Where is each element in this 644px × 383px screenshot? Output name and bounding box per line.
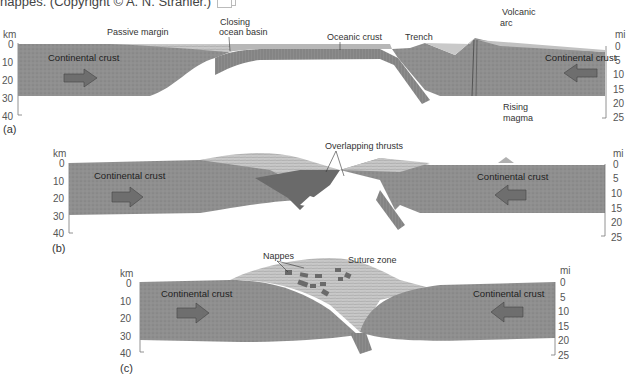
axis-mi-unit: mi (613, 148, 624, 159)
axis-mi-tick: 25 (558, 350, 570, 361)
axis-mi-tick: 25 (613, 112, 625, 123)
label-closing-ocean-basin: Closing (220, 17, 250, 27)
axis-km-tick: 30 (2, 93, 14, 104)
panel-c: km 0 10 20 30 40 mi 0 5 10 15 20 (120, 251, 571, 374)
panel-a: km 0 10 20 30 40 mi 0 5 10 15 20 25 Pass… (2, 7, 626, 135)
axis-mi-tick: 10 (613, 69, 625, 80)
label-continental-crust-left: Continental crust (48, 52, 120, 63)
axis-mi-tick: 15 (611, 203, 623, 214)
axis-km-tick: 0 (8, 39, 14, 50)
axis-km-tick: 40 (53, 228, 65, 239)
axis-mi-tick: 0 (560, 277, 566, 288)
label-suture-zone: Suture zone (348, 255, 397, 265)
axis-km-tick: 0 (126, 278, 132, 289)
axis-km-tick: 40 (120, 348, 132, 359)
label-passive-margin: Passive margin (107, 27, 169, 37)
axis-km-tick: 20 (53, 193, 65, 204)
axis-km-tick: 20 (2, 75, 14, 86)
label-closing-ocean-basin: ocean basin (219, 27, 268, 37)
label-continental-crust-right: Continental crust (473, 288, 545, 299)
axis-mi-tick: 10 (611, 188, 623, 199)
label-volcanic-arc: arc (500, 18, 513, 28)
panel-label-b: (b) (52, 242, 65, 254)
axis-mi-tick: 15 (558, 321, 570, 332)
axis-mi-tick: 5 (560, 292, 566, 303)
axis-mi-tick: 20 (611, 217, 623, 228)
label-rising-magma: Rising (503, 102, 528, 112)
label-rising-magma: magma (503, 113, 533, 123)
label-trench: Trench (405, 32, 433, 42)
panel-label-c: (c) (120, 362, 133, 374)
panel-label-a: (a) (3, 123, 16, 135)
axis-mi-tick: 20 (613, 98, 625, 109)
axis-km-tick: 10 (2, 57, 14, 68)
axis-mi-tick: 5 (613, 173, 619, 184)
axis-km-tick: 20 (120, 313, 132, 324)
axis-km-tick: 30 (120, 331, 132, 342)
axis-mi-tick: 25 (611, 232, 623, 243)
label-continental-crust-left: Continental crust (94, 170, 166, 181)
axis-mi-tick: 0 (613, 159, 619, 170)
label-continental-crust-left: Continental crust (161, 288, 233, 299)
axis-mi-unit: mi (560, 265, 571, 276)
label-overlapping-thrusts: Overlapping thrusts (325, 141, 404, 151)
axis-mi-tick: 10 (558, 306, 570, 317)
label-nappes: Nappes (263, 251, 295, 261)
axis-mi-unit: mi (615, 29, 626, 40)
axis-km-tick: 0 (59, 158, 65, 169)
label-oceanic-crust: Oceanic crust (327, 32, 383, 42)
axis-km-tick: 30 (53, 211, 65, 222)
label-continental-crust-right: Continental crust (477, 171, 549, 182)
axis-km-tick: 10 (120, 296, 132, 307)
axis-mi-tick: 0 (615, 41, 621, 52)
axis-km-tick: 10 (53, 176, 65, 187)
label-volcanic-arc: Volcanic (502, 7, 536, 17)
axis-mi-tick: 20 (558, 335, 570, 346)
axis-km-tick: 40 (2, 111, 14, 122)
panel-b: km 0 10 20 30 40 mi 0 5 10 15 20 25 Over… (52, 141, 624, 254)
axis-mi-tick: 15 (613, 84, 625, 95)
label-continental-crust-right: Continental crust (545, 52, 617, 63)
continental-collision-diagram: km 0 10 20 30 40 mi 0 5 10 15 20 25 Pass… (0, 0, 644, 383)
